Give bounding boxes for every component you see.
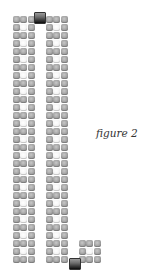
gray-bead	[61, 200, 68, 207]
bead-row	[13, 32, 35, 40]
gray-bead	[61, 240, 68, 247]
gray-bead	[46, 72, 53, 79]
gray-bead	[61, 80, 68, 87]
bottom-connector-bead	[69, 258, 81, 270]
gray-bead	[53, 128, 60, 135]
white-bead	[20, 72, 27, 79]
gray-bead	[13, 16, 20, 23]
gray-bead	[13, 160, 20, 167]
gray-bead	[61, 88, 68, 95]
gray-bead	[61, 40, 68, 47]
gray-bead	[46, 64, 53, 71]
white-bead	[53, 136, 60, 143]
gray-bead	[46, 48, 53, 55]
gray-bead	[13, 192, 20, 199]
gray-bead	[20, 256, 27, 263]
gray-bead	[61, 248, 68, 255]
gray-bead	[28, 256, 35, 263]
gray-bead	[13, 136, 20, 143]
gray-bead	[13, 120, 20, 127]
bead-row	[13, 200, 35, 208]
gray-bead	[13, 96, 20, 103]
bead-row	[46, 208, 68, 216]
gray-bead	[46, 256, 53, 263]
bead-row	[46, 184, 68, 192]
gray-bead	[61, 32, 68, 39]
gray-bead	[61, 112, 68, 119]
bead-row	[13, 256, 35, 264]
gray-bead	[13, 208, 20, 215]
gray-bead	[46, 216, 53, 223]
bead-row	[13, 232, 35, 240]
gray-bead	[46, 152, 53, 159]
bead-row	[46, 232, 68, 240]
white-bead	[53, 216, 60, 223]
white-bead	[53, 200, 60, 207]
gray-bead	[53, 160, 60, 167]
gray-bead	[61, 192, 68, 199]
gray-bead	[61, 104, 68, 111]
bead-row	[46, 152, 68, 160]
gray-bead	[86, 240, 93, 247]
gray-bead	[53, 80, 60, 87]
gray-bead	[20, 112, 27, 119]
gray-bead	[13, 224, 20, 231]
gray-bead	[61, 208, 68, 215]
gray-bead	[13, 200, 20, 207]
white-bead	[53, 24, 60, 31]
bead-row	[46, 136, 68, 144]
gray-bead	[86, 256, 93, 263]
white-bead	[86, 248, 93, 255]
gray-bead	[46, 80, 53, 87]
bead-row	[13, 208, 35, 216]
gray-bead	[28, 152, 35, 159]
gray-bead	[20, 128, 27, 135]
gray-bead	[28, 232, 35, 239]
gray-bead	[28, 216, 35, 223]
gray-bead	[28, 224, 35, 231]
gray-bead	[46, 88, 53, 95]
bead-row	[13, 112, 35, 120]
bead-row	[13, 216, 35, 224]
gray-bead	[46, 16, 53, 23]
bead-row	[46, 168, 68, 176]
gray-bead	[20, 176, 27, 183]
bead-row	[46, 176, 68, 184]
gray-bead	[61, 152, 68, 159]
gray-bead	[28, 168, 35, 175]
bead-row	[46, 88, 68, 96]
bead-row	[13, 16, 35, 24]
gray-bead	[53, 144, 60, 151]
white-bead	[20, 104, 27, 111]
gray-bead	[13, 64, 20, 71]
bead-row	[13, 144, 35, 152]
bead-row	[13, 248, 35, 256]
gray-bead	[28, 56, 35, 63]
gray-bead	[28, 192, 35, 199]
gray-bead	[46, 168, 53, 175]
gray-bead	[46, 40, 53, 47]
gray-bead	[13, 128, 20, 135]
white-bead	[53, 168, 60, 175]
bead-row	[13, 224, 35, 232]
gray-bead	[46, 136, 53, 143]
white-bead	[20, 88, 27, 95]
gray-bead	[79, 248, 86, 255]
bead-row	[46, 24, 68, 32]
gray-bead	[46, 112, 53, 119]
gray-bead	[53, 192, 60, 199]
bead-row	[13, 160, 35, 168]
gray-bead	[13, 232, 20, 239]
gray-bead	[53, 112, 60, 119]
gray-bead	[13, 216, 20, 223]
gray-bead	[28, 40, 35, 47]
bead-row	[46, 64, 68, 72]
gray-bead	[13, 104, 20, 111]
gray-bead	[13, 144, 20, 151]
gray-bead	[61, 144, 68, 151]
gray-bead	[61, 256, 68, 263]
gray-bead	[53, 16, 60, 23]
gray-bead	[53, 208, 60, 215]
gray-bead	[13, 24, 20, 31]
bead-row	[46, 248, 68, 256]
